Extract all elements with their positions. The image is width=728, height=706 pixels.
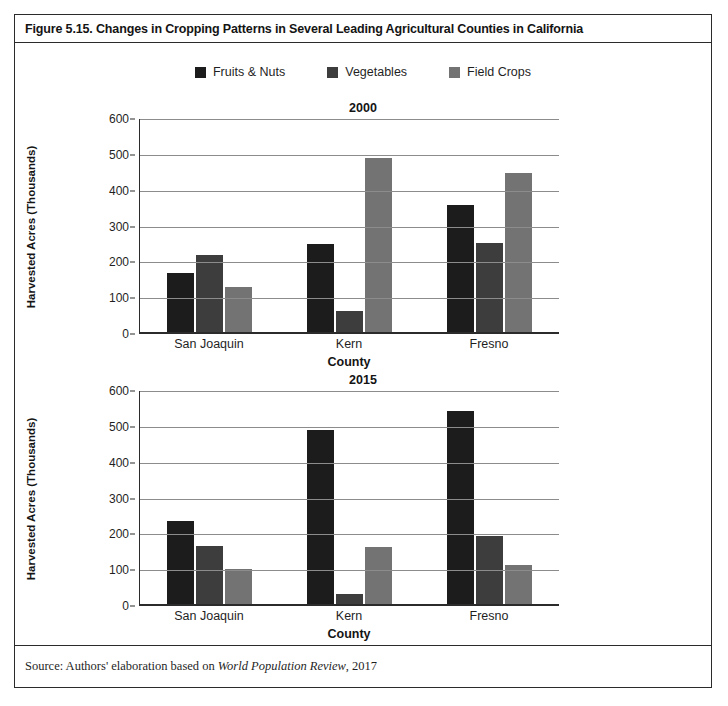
y-axis-tick-mark <box>130 334 135 335</box>
chart-legend: Fruits & NutsVegetablesField Crops <box>15 65 711 79</box>
legend-item: Vegetables <box>327 65 407 79</box>
y-axis-tick-label: 100 <box>109 291 129 305</box>
bar <box>196 546 223 606</box>
source-prefix: Source: Authors' elaboration based on <box>25 659 218 673</box>
chart-2000: 2000 Harvested Acres (Thousands) 0100200… <box>15 101 711 371</box>
bar <box>476 243 503 334</box>
gridline <box>140 427 559 428</box>
gridline <box>140 155 559 156</box>
gridline <box>140 570 559 571</box>
bar <box>505 173 532 334</box>
y-axis-tick-label: 600 <box>109 384 129 398</box>
x-axis-tick-label: Fresno <box>419 609 559 623</box>
y-axis-tick-mark <box>130 570 135 571</box>
chart-2015-x-axis-line <box>140 604 559 606</box>
y-axis-tick-label: 500 <box>109 148 129 162</box>
gridline <box>140 191 559 192</box>
chart-2000-plot: 0100200300400500600 <box>139 119 559 334</box>
chart-2000-x-ticks: San JoaquinKernFresno <box>139 337 559 351</box>
gridline <box>140 391 559 392</box>
gridline <box>140 499 559 500</box>
y-axis-tick-mark <box>130 606 135 607</box>
legend-label: Vegetables <box>345 65 407 79</box>
bar <box>307 430 334 606</box>
y-axis-tick-label: 100 <box>109 563 129 577</box>
bar <box>225 569 252 606</box>
y-axis-tick-label: 500 <box>109 420 129 434</box>
legend-item: Field Crops <box>449 65 531 79</box>
source-work-title: World Population Review <box>218 659 346 673</box>
gridline <box>140 298 559 299</box>
chart-2000-plot-area <box>139 119 559 334</box>
chart-2015-x-axis-label: County <box>139 627 559 641</box>
y-axis-tick-mark <box>130 154 135 155</box>
y-axis-tick-mark <box>130 226 135 227</box>
chart-2015-x-ticks: San JoaquinKernFresno <box>139 609 559 623</box>
legend-swatch-icon <box>449 67 460 78</box>
y-axis-tick-mark <box>130 119 135 120</box>
y-axis-tick-mark <box>130 534 135 535</box>
gridline <box>140 463 559 464</box>
page-title: Figure 5.15. Changes in Cropping Pattern… <box>15 22 583 36</box>
bar <box>447 411 474 606</box>
y-axis-tick-label: 400 <box>109 184 129 198</box>
legend-swatch-icon <box>195 67 206 78</box>
y-axis-tick-mark <box>130 298 135 299</box>
y-axis-tick-mark <box>130 391 135 392</box>
chart-2000-y-ticks: 0100200300400500600 <box>95 119 135 334</box>
gridline <box>140 262 559 263</box>
gridline <box>140 227 559 228</box>
legend-label: Fruits & Nuts <box>213 65 285 79</box>
bar <box>365 158 392 334</box>
chart-2000-x-axis-line <box>140 332 559 334</box>
x-axis-tick-label: San Joaquin <box>139 609 279 623</box>
y-axis-tick-mark <box>130 426 135 427</box>
bar <box>225 287 252 334</box>
legend-swatch-icon <box>327 67 338 78</box>
y-axis-tick-mark <box>130 462 135 463</box>
x-axis-tick-label: Fresno <box>419 337 559 351</box>
chart-2015: 2015 Harvested Acres (Thousands) 0100200… <box>15 373 711 643</box>
bar <box>365 547 392 606</box>
gridline <box>140 534 559 535</box>
bar <box>447 205 474 334</box>
chart-2015-y-ticks: 0100200300400500600 <box>95 391 135 606</box>
figure-body: Fruits & NutsVegetablesField Crops 2000 … <box>15 43 711 647</box>
legend-item: Fruits & Nuts <box>195 65 285 79</box>
chart-2015-plot-area <box>139 391 559 606</box>
source-note: Source: Authors' elaboration based on Wo… <box>15 659 377 674</box>
legend-label: Field Crops <box>467 65 531 79</box>
figure-title-bar: Figure 5.15. Changes in Cropping Pattern… <box>15 15 711 43</box>
chart-2000-x-axis-label: County <box>139 355 559 369</box>
y-axis-tick-label: 300 <box>109 492 129 506</box>
x-axis-tick-label: San Joaquin <box>139 337 279 351</box>
y-axis-tick-label: 200 <box>109 255 129 269</box>
bar <box>307 244 334 334</box>
x-axis-tick-label: Kern <box>279 609 419 623</box>
y-axis-tick-label: 300 <box>109 220 129 234</box>
y-axis-tick-label: 0 <box>122 327 129 341</box>
chart-2015-y-axis-label: Harvested Acres (Thousands) <box>21 391 41 606</box>
y-axis-tick-mark <box>130 498 135 499</box>
bar <box>167 273 194 334</box>
source-suffix: , 2017 <box>346 659 377 673</box>
bar <box>196 255 223 334</box>
bar <box>336 311 363 334</box>
source-bar: Source: Authors' elaboration based on Wo… <box>15 645 711 687</box>
x-axis-tick-label: Kern <box>279 337 419 351</box>
y-axis-tick-mark <box>130 190 135 191</box>
y-axis-tick-label: 400 <box>109 456 129 470</box>
figure-frame: Figure 5.15. Changes in Cropping Pattern… <box>14 14 712 688</box>
chart-2000-y-axis-label: Harvested Acres (Thousands) <box>21 119 41 334</box>
y-axis-tick-label: 0 <box>122 599 129 613</box>
y-axis-tick-label: 200 <box>109 527 129 541</box>
y-axis-tick-label: 600 <box>109 112 129 126</box>
chart-2015-plot: 0100200300400500600 <box>139 391 559 606</box>
y-axis-tick-mark <box>130 262 135 263</box>
gridline <box>140 119 559 120</box>
